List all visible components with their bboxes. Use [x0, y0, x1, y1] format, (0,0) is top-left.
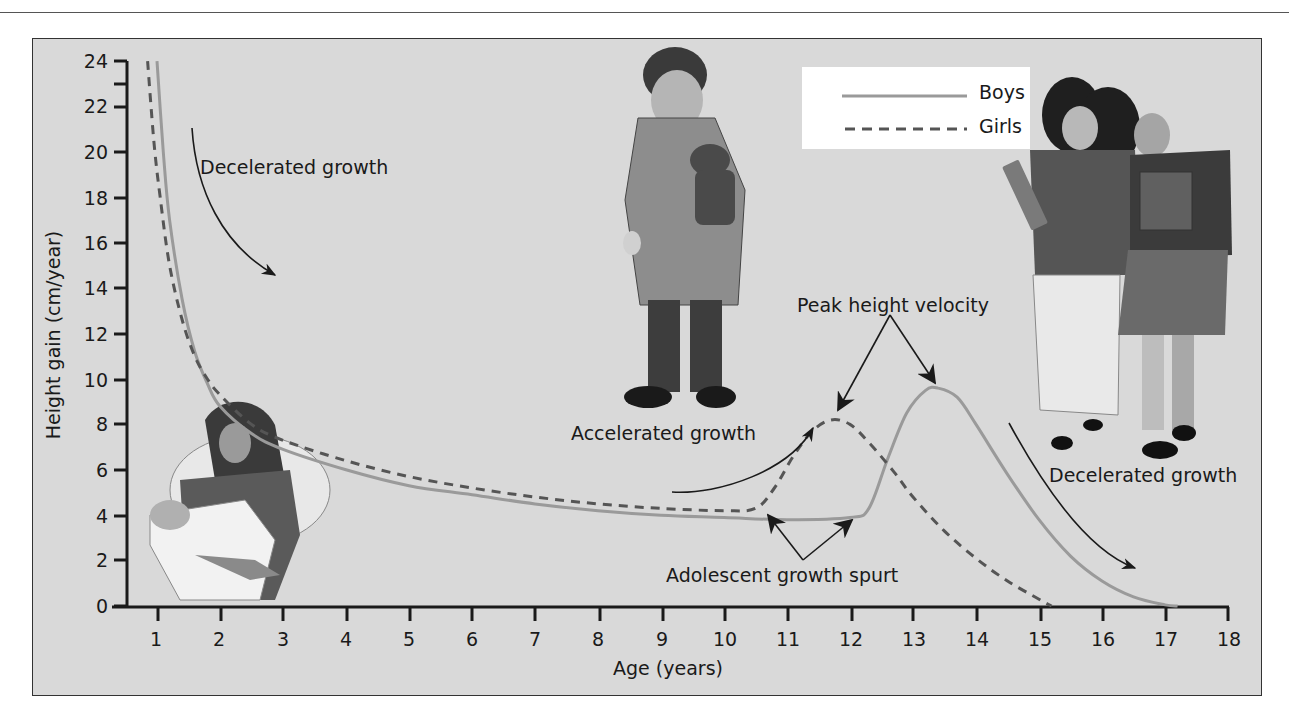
svg-text:17: 17 [1154, 628, 1178, 650]
svg-text:9: 9 [656, 628, 668, 650]
y-tick-labels: 24 22 20 18 16 14 12 10 8 6 4 2 0 [84, 50, 108, 617]
legend-swatch-dashed [802, 109, 972, 139]
annotation-decelerated-early: Decelerated growth [200, 156, 388, 178]
svg-text:24: 24 [84, 50, 108, 72]
svg-text:12: 12 [84, 323, 108, 345]
svg-text:16: 16 [84, 232, 108, 254]
svg-text:3: 3 [277, 628, 289, 650]
svg-text:12: 12 [839, 628, 863, 650]
svg-text:18: 18 [84, 187, 108, 209]
svg-text:22: 22 [84, 95, 108, 117]
legend-label-girls: Girls [979, 115, 1022, 137]
legend: Boys Girls [802, 67, 1030, 149]
x-axis-label: Age (years) [613, 657, 723, 679]
mother-infant-illustration [150, 402, 330, 600]
girls-illustration [1002, 77, 1232, 459]
legend-label-boys: Boys [979, 81, 1025, 103]
legend-swatch-solid [802, 75, 972, 105]
svg-text:13: 13 [902, 628, 926, 650]
svg-text:16: 16 [1091, 628, 1115, 650]
svg-text:8: 8 [96, 413, 108, 435]
svg-text:0: 0 [96, 595, 108, 617]
annotation-accelerated: Accelerated growth [571, 422, 756, 444]
svg-text:2: 2 [96, 549, 108, 571]
svg-text:14: 14 [84, 277, 108, 299]
svg-text:14: 14 [965, 628, 989, 650]
svg-text:2: 2 [213, 628, 225, 650]
chart-plot: 24 22 20 18 16 14 12 10 8 6 4 2 0 Height… [0, 0, 1289, 728]
svg-text:10: 10 [713, 628, 737, 650]
svg-text:10: 10 [84, 369, 108, 391]
svg-text:6: 6 [466, 628, 478, 650]
svg-text:8: 8 [592, 628, 604, 650]
annotation-decelerated-late: Decelerated growth [1049, 464, 1237, 486]
annotation-growth-spurt: Adolescent growth spurt [666, 564, 898, 586]
annotation-peak-velocity: Peak height velocity [797, 294, 989, 316]
x-axis [112, 607, 1229, 621]
legend-item-girls: Girls [802, 109, 1030, 139]
svg-text:7: 7 [529, 628, 541, 650]
svg-text:20: 20 [84, 141, 108, 163]
svg-text:4: 4 [96, 505, 108, 527]
y-axis [114, 61, 127, 607]
x-tick-labels: 1 2 3 4 5 6 7 8 9 10 11 12 13 14 15 16 1… [150, 628, 1241, 650]
boy-teddy-illustration [623, 47, 745, 408]
svg-text:4: 4 [340, 628, 352, 650]
svg-text:15: 15 [1028, 628, 1052, 650]
svg-text:5: 5 [403, 628, 415, 650]
legend-item-boys: Boys [802, 75, 1030, 105]
svg-text:18: 18 [1217, 628, 1241, 650]
svg-text:6: 6 [96, 459, 108, 481]
svg-text:11: 11 [776, 628, 800, 650]
y-axis-label: Height gain (cm/year) [42, 231, 64, 439]
svg-text:1: 1 [150, 628, 162, 650]
